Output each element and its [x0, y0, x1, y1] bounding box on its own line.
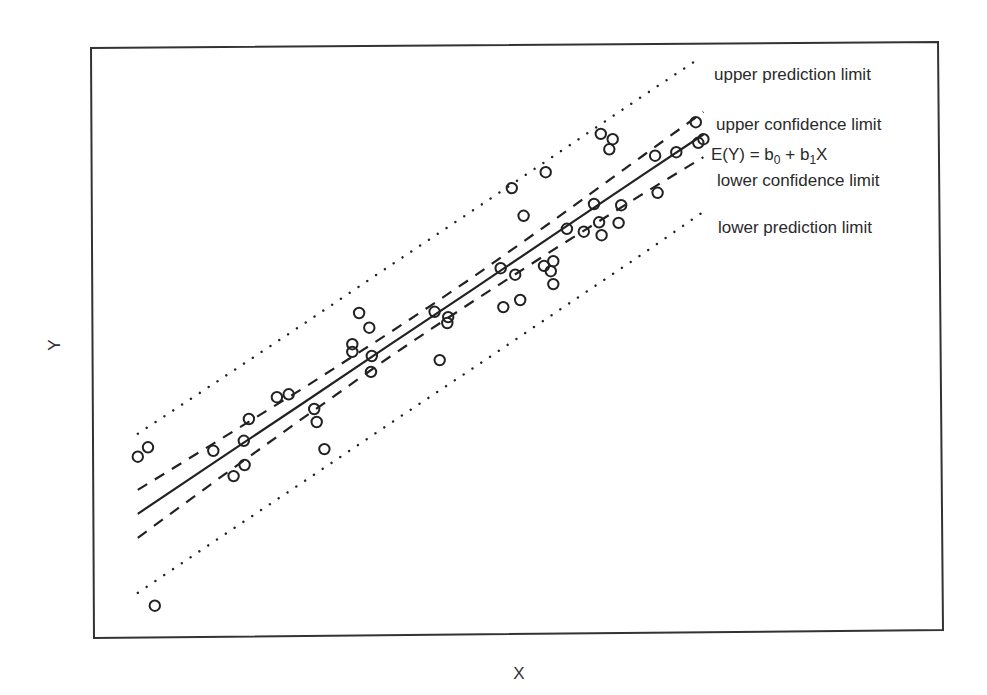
data-point: [507, 183, 517, 193]
data-point: [228, 471, 238, 481]
regression-band-chart: upper prediction limit upper confidence …: [0, 0, 987, 695]
line-lower-confidence-limit: [138, 157, 704, 538]
line-e-y-b0-b1x: [138, 135, 704, 514]
eq-part-X: X: [816, 145, 827, 164]
data-point: [272, 392, 282, 402]
data-point: [613, 218, 623, 228]
data-point: [594, 217, 604, 227]
data-points: [133, 117, 709, 611]
data-point: [548, 279, 558, 289]
label-upper-prediction-limit: upper prediction limit: [714, 65, 871, 84]
y-axis-label: Y: [45, 339, 64, 350]
label-lower-confidence-limit: lower confidence limit: [717, 171, 880, 190]
data-point: [498, 302, 508, 312]
data-point: [518, 211, 528, 221]
data-point: [239, 460, 249, 470]
label-lower-prediction-limit: lower prediction limit: [718, 218, 872, 237]
data-point: [319, 444, 329, 454]
data-point: [515, 295, 525, 305]
data-point: [143, 442, 153, 452]
data-point: [354, 308, 364, 318]
eq-part-E: E(Y) = b: [711, 145, 774, 164]
x-axis-label: X: [513, 664, 524, 683]
data-point: [347, 347, 357, 357]
eq-part-plus: + b: [781, 145, 810, 164]
data-point: [652, 188, 662, 198]
data-point: [608, 134, 618, 144]
line-lower-prediction-limit: [138, 213, 702, 593]
data-point: [596, 129, 606, 139]
data-point: [364, 323, 374, 333]
data-point: [208, 446, 218, 456]
data-point: [133, 452, 143, 462]
data-point: [650, 151, 660, 161]
data-point: [596, 230, 606, 240]
data-point: [541, 167, 551, 177]
line-upper-confidence-limit: [138, 112, 704, 490]
label-regression-equation: E(Y) = b0 + b1X: [711, 145, 827, 167]
data-point: [309, 404, 319, 414]
data-point: [312, 417, 322, 427]
line-upper-prediction-limit: [138, 57, 702, 434]
data-point: [150, 601, 160, 611]
data-point: [548, 256, 558, 266]
data-point: [435, 355, 445, 365]
data-point: [604, 144, 614, 154]
label-upper-confidence-limit: upper confidence limit: [716, 115, 882, 134]
